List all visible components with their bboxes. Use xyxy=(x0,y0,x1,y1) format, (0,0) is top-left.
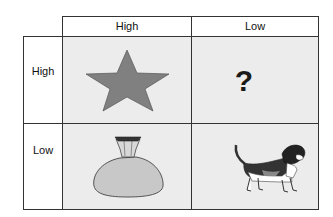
dog-icon xyxy=(0,0,333,217)
